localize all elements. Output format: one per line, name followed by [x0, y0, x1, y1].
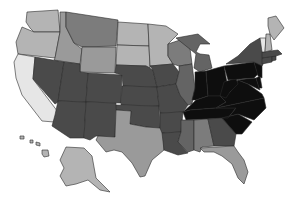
state-mt	[66, 12, 118, 47]
state-wy	[80, 47, 116, 73]
us-choropleth-map	[0, 0, 299, 207]
state-nd	[117, 22, 149, 46]
state-pa	[224, 62, 258, 80]
state-nh	[265, 34, 272, 52]
state-ak	[60, 147, 110, 192]
state-fl	[200, 146, 248, 184]
state-wa	[26, 10, 60, 32]
state-az	[52, 101, 86, 138]
state-hi	[20, 136, 49, 157]
state-co	[86, 73, 122, 103]
state-sd	[116, 45, 150, 68]
state-ks	[121, 86, 159, 106]
state-ar	[160, 112, 183, 133]
state-ny	[226, 38, 264, 66]
state-nm	[84, 102, 116, 140]
